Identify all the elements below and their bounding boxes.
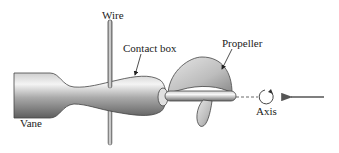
propeller-leader [222,49,232,69]
axis-label: Axis [256,106,277,117]
vane-label: Vane [20,118,42,129]
wire-rod-front [108,20,112,88]
vane-body [14,73,166,118]
propeller-upper-blade [168,57,232,93]
contact-box-label: Contact box [123,43,176,54]
vane-propeller-diagram [0,0,339,153]
propeller-hub [165,91,236,101]
wire-label: Wire [102,10,124,21]
propeller-label: Propeller [222,38,262,49]
contact-box-leader [135,54,141,75]
propeller-lower-blade [197,100,212,126]
